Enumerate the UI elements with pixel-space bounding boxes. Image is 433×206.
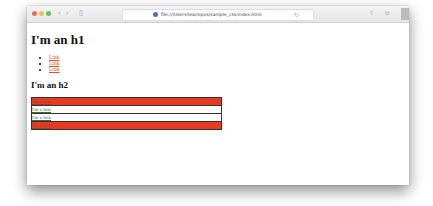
address-bar[interactable]: file:///Users/lea/repos/sample_css/index… bbox=[122, 9, 314, 21]
forward-icon[interactable]: › bbox=[66, 9, 69, 17]
minimize-window-button[interactable] bbox=[39, 11, 44, 16]
link-list: Link Link Link bbox=[31, 54, 409, 72]
row-link[interactable]: I'm a link bbox=[32, 115, 51, 120]
tabs-icon[interactable]: ⧉ bbox=[385, 9, 389, 17]
list-item: Link bbox=[49, 66, 409, 72]
reload-icon[interactable]: ↻ bbox=[294, 10, 299, 20]
table-row: I'm a link bbox=[32, 122, 221, 129]
url-text: file:///Users/lea/repos/sample_css/index… bbox=[161, 10, 262, 20]
share-icon[interactable]: ⇧ bbox=[369, 9, 374, 16]
new-tab-button[interactable] bbox=[401, 8, 409, 20]
page-content: I'm an h1 Link Link Link I'm an h2 I'm a… bbox=[31, 23, 409, 130]
zoom-window-button[interactable] bbox=[46, 11, 51, 16]
table-row: I'm a link bbox=[32, 114, 221, 122]
globe-icon bbox=[153, 12, 158, 17]
table-row: I'm a link bbox=[32, 98, 221, 106]
row-link[interactable]: I'm a link bbox=[32, 107, 51, 112]
sidebar-icon[interactable]: ▯ bbox=[79, 9, 83, 17]
close-window-button[interactable] bbox=[32, 11, 37, 16]
row-link[interactable]: I'm a link bbox=[32, 123, 51, 128]
link-table: I'm a link I'm a link I'm a link I'm a l… bbox=[31, 97, 222, 130]
page-heading-h2: I'm an h2 bbox=[31, 80, 409, 90]
browser-toolbar: ‹ › ▯ file:///Users/lea/repos/sample_css… bbox=[27, 6, 409, 23]
back-icon[interactable]: ‹ bbox=[58, 9, 61, 17]
row-link[interactable]: I'm a link bbox=[32, 99, 51, 104]
page-heading-h1: I'm an h1 bbox=[31, 32, 409, 48]
browser-window: ‹ › ▯ file:///Users/lea/repos/sample_css… bbox=[27, 6, 409, 185]
link[interactable]: Link bbox=[49, 66, 59, 72]
table-row: I'm a link bbox=[32, 106, 221, 114]
